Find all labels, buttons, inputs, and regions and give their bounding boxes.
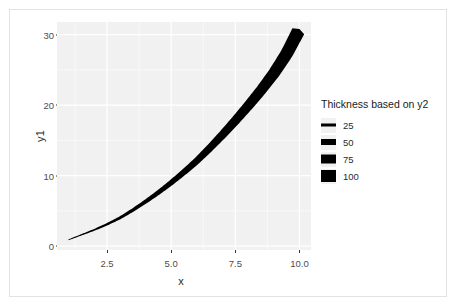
gridlines-minor [57,22,311,250]
x-axis-ticklabels: 2.55.07.510.0 [52,250,310,274]
x-tick-label: 2.5 [89,258,125,269]
x-tick-label: 10.0 [281,258,317,269]
legend-item-label: 100 [343,171,359,182]
y-tick-label: 0 [26,241,54,252]
chart-legend: Thickness based on y2 255075100 [321,98,445,185]
x-tick-mark [299,250,300,253]
gridlines-major [57,22,311,250]
x-tick-mark [107,250,108,253]
chart-canvas [57,22,311,250]
data-series-y1 [68,28,304,240]
legend-item[interactable]: 75 [321,151,445,167]
legend-key-swatch [321,169,336,184]
y-tick-label: 20 [26,100,54,111]
legend-item-label: 25 [343,120,354,131]
x-tick-label: 7.5 [217,258,253,269]
figure-frame: y1 0102030 2.55.07.510.0 x Thickness bas… [9,9,447,297]
x-tick-label: 5.0 [153,258,189,269]
legend-item-label: 75 [343,154,354,165]
y-tick-label: 30 [26,29,54,40]
legend-item[interactable]: 50 [321,134,445,150]
legend-item-label: 50 [343,137,354,148]
legend-key-swatch [321,152,336,167]
y-tick-label: 10 [26,170,54,181]
legend-item[interactable]: 100 [321,168,445,184]
y-axis-ticklabels: 0102030 [26,22,54,250]
x-tick-mark [235,250,236,253]
x-tick-mark [171,250,172,253]
legend-item[interactable]: 25 [321,117,445,133]
chart-panel [57,22,311,250]
x-axis-title: x [52,275,310,287]
legend-key-swatch [321,118,336,133]
legend-key-swatch [321,135,336,150]
legend-title: Thickness based on y2 [321,98,445,110]
legend-items: 255075100 [321,117,445,184]
